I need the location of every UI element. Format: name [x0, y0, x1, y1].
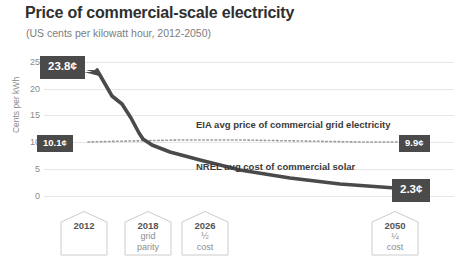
annotation-solar-cost: NREL avg cost of commercial solar: [196, 161, 355, 172]
callout-solar-end: 2.3¢: [392, 179, 430, 202]
x-tag-2012: 2012: [60, 210, 108, 256]
x-tag-2050-line3: cost: [371, 242, 419, 253]
x-tag-2050: 2050 ¼ cost: [371, 210, 419, 256]
x-tag-2026-line3: cost: [181, 242, 229, 253]
x-tag-2026-year: 2026: [181, 220, 229, 231]
x-tag-2026: 2026 ½ cost: [181, 210, 229, 256]
annotation-grid-electricity: EIA avg price of commercial grid electri…: [196, 119, 390, 130]
x-tag-2018-year: 2018: [124, 220, 172, 231]
chart-container: Price of commercial-scale electricity (U…: [0, 0, 454, 261]
callout-solar-start: 23.8¢: [40, 56, 85, 79]
grid-electricity-line: [88, 140, 400, 142]
tag-shape-icon: [60, 210, 108, 256]
x-tag-2018-line2: grid: [124, 231, 172, 242]
x-tag-2018: 2018 grid parity: [124, 210, 172, 256]
x-tag-2018-line3: parity: [124, 242, 172, 253]
x-tag-2050-line2: ¼: [371, 231, 419, 242]
x-tag-2026-line2: ½: [181, 231, 229, 242]
callout-grid-start: 10.1¢: [37, 135, 73, 152]
x-tag-2050-year: 2050: [371, 220, 419, 231]
x-tag-2012-year: 2012: [60, 220, 108, 231]
callout-grid-end: 9.9¢: [399, 135, 430, 152]
